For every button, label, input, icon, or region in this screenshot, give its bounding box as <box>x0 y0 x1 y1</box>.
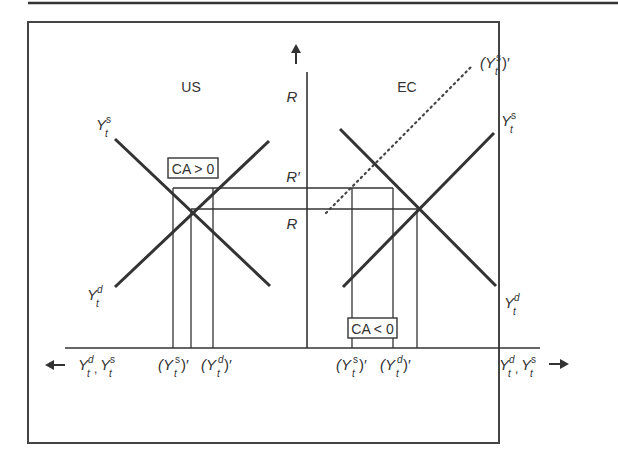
svg-text:(Y: (Y <box>380 356 396 373</box>
ec-shifted-supply-label: (Y s t )′ <box>480 52 510 77</box>
svg-text:s: s <box>175 354 180 365</box>
svg-text:)′: )′ <box>181 356 189 373</box>
ec-supply-label: Y s t <box>501 110 516 135</box>
ec-ca-box: CA < 0 <box>348 318 397 338</box>
svg-text:t: t <box>217 368 221 379</box>
ec-tick-supply-prime: (Y s t )′ <box>336 354 367 379</box>
x-axis-left-label: Y d t , Y s t <box>78 354 115 379</box>
axis-label-r-top: R <box>287 88 298 105</box>
svg-text:s: s <box>110 354 115 365</box>
svg-text:t: t <box>508 368 512 379</box>
ec-tick-demand-prime: (Y d t )′ <box>380 354 411 379</box>
svg-text:t: t <box>87 368 91 379</box>
svg-text:)′: )′ <box>502 54 510 71</box>
us-panel-title: US <box>181 79 200 95</box>
ec-demand-curve <box>340 129 496 286</box>
us-ca-label: CA > 0 <box>172 161 215 177</box>
svg-text:(Y: (Y <box>158 356 174 373</box>
svg-text:)′: )′ <box>359 356 367 373</box>
x-axis-right-label: Y d t , Y s t <box>499 354 536 379</box>
svg-text:d: d <box>97 284 103 295</box>
svg-text:t: t <box>396 368 400 379</box>
svg-text:(Y: (Y <box>480 54 496 71</box>
svg-text:t: t <box>513 306 517 317</box>
svg-text:,: , <box>94 362 97 376</box>
svg-text:t: t <box>105 128 109 139</box>
right-arrow-icon <box>549 359 569 369</box>
axis-label-r: R <box>287 215 298 232</box>
svg-text:t: t <box>510 124 514 135</box>
us-tick-supply-prime: (Y s t )′ <box>158 354 189 379</box>
us-supply-label: Y s t <box>96 114 111 139</box>
svg-text:)′: )′ <box>403 356 411 373</box>
ec-panel-title: EC <box>397 79 416 95</box>
svg-text:s: s <box>496 52 501 63</box>
us-tick-demand-prime: (Y d t )′ <box>201 354 232 379</box>
svg-text:d: d <box>514 292 520 303</box>
figure-frame <box>28 22 499 443</box>
axis-label-r-prime: R′ <box>286 168 301 185</box>
svg-text:s: s <box>531 354 536 365</box>
us-ca-box: CA > 0 <box>168 158 218 178</box>
ec-ca-label: CA < 0 <box>351 321 394 337</box>
svg-text:t: t <box>352 368 356 379</box>
ec-demand-label: Y d t <box>504 292 520 317</box>
svg-text:s: s <box>511 110 516 121</box>
left-arrow-icon <box>45 360 65 370</box>
svg-text:t: t <box>174 368 178 379</box>
svg-text:(Y: (Y <box>201 356 217 373</box>
svg-text:t: t <box>109 368 113 379</box>
us-demand-label: Y d t <box>87 284 103 309</box>
svg-text:t: t <box>96 298 100 309</box>
svg-text:(Y: (Y <box>336 356 352 373</box>
svg-text:t: t <box>530 368 534 379</box>
two-country-diagram: CA > 0 CA < 0 US EC R R′ R Y s t Y d t Y… <box>0 0 618 462</box>
up-arrow-icon <box>291 44 301 64</box>
svg-text:s: s <box>353 354 358 365</box>
svg-text:,: , <box>515 362 518 376</box>
svg-text:s: s <box>106 114 111 125</box>
svg-text:)′: )′ <box>224 356 232 373</box>
